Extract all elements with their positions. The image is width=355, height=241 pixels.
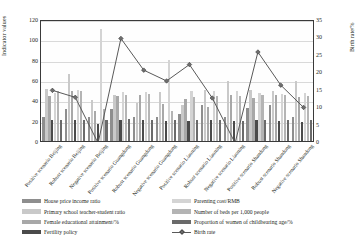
line-path bbox=[52, 38, 303, 142]
y-axis-right-ticks: 05101520253035 bbox=[316, 20, 338, 142]
y-tick-left: 120 bbox=[29, 17, 38, 23]
x-tick-label: Positive scenario Shandong bbox=[226, 143, 269, 193]
x-tick-label: Positive scenario Guangdong bbox=[86, 143, 131, 195]
legend-swatch-icon bbox=[172, 220, 191, 224]
y-tick-right: 20 bbox=[316, 69, 322, 75]
x-tick-label: Negative scenario Liaoning bbox=[203, 143, 246, 192]
y-axis-right-title: Birth rate/% bbox=[349, 23, 355, 53]
y-tick-right: 25 bbox=[316, 52, 322, 58]
legend-label: Female educational attainment/% bbox=[44, 219, 119, 225]
legend-item[interactable]: Female educational attainment/% bbox=[22, 219, 172, 225]
legend-item[interactable]: Birth rate bbox=[172, 229, 338, 235]
y-tick-left: 20 bbox=[32, 119, 38, 125]
y-tick-right: 35 bbox=[316, 17, 322, 23]
x-tick-label: Robust scenario Guangdong bbox=[110, 143, 154, 194]
legend-item[interactable]: Fertility policy bbox=[22, 229, 172, 235]
y-tick-left: 0 bbox=[35, 139, 38, 145]
x-tick-label: Negative scenario Shandong bbox=[270, 143, 314, 194]
y-tick-right: 15 bbox=[316, 87, 322, 93]
legend-label: Fertility policy bbox=[44, 229, 77, 235]
legend-label: Birth rate bbox=[194, 229, 215, 235]
y-tick-right: 5 bbox=[316, 122, 319, 128]
x-axis-labels: Positive scenario BeijingRobust scenario… bbox=[40, 143, 314, 198]
y-tick-left: 60 bbox=[32, 78, 38, 84]
y-tick-right: 10 bbox=[316, 104, 322, 110]
y-tick-left: 100 bbox=[29, 37, 38, 43]
y-axis-left-ticks: 020406080100120 bbox=[16, 20, 38, 142]
line-marker bbox=[50, 88, 55, 93]
y-tick-right: 30 bbox=[316, 34, 322, 40]
legend-label: Primary school teacher-student ratio bbox=[44, 209, 125, 215]
legend-swatch-icon bbox=[22, 209, 41, 213]
chart-legend: House price income ratioParenting cost/R… bbox=[22, 196, 338, 238]
legend-label: Parenting cost/RMB bbox=[194, 198, 240, 204]
x-tick-label: Robust scenario Shandong bbox=[250, 143, 292, 191]
line-marker bbox=[73, 95, 78, 100]
birth-rate-line bbox=[41, 21, 314, 142]
legend-label: Number of beds per 1,000 people bbox=[194, 209, 269, 215]
legend-item[interactable]: Primary school teacher-student ratio bbox=[22, 209, 172, 215]
legend-label: Proportion of women of childbearing age/… bbox=[194, 219, 293, 225]
legend-swatch-icon bbox=[172, 199, 191, 203]
legend-item[interactable]: Proportion of women of childbearing age/… bbox=[172, 219, 338, 225]
legend-item[interactable]: Parenting cost/RMB bbox=[172, 198, 338, 204]
legend-item[interactable]: House price income ratio bbox=[22, 198, 172, 204]
x-tick-label: Positive scenario Beijing bbox=[24, 143, 63, 188]
x-tick-label: Negative scenario Guangdong bbox=[131, 143, 178, 197]
y-axis-left-title: Indicator values bbox=[1, 16, 7, 56]
plot-area-wrapper: Indicator values Birth rate/% 0204060801… bbox=[0, 0, 354, 160]
y-tick-left: 80 bbox=[32, 58, 38, 64]
plot-area bbox=[40, 20, 314, 142]
legend-swatch-icon bbox=[22, 230, 41, 234]
legend-line-marker-icon bbox=[172, 230, 191, 234]
legend-swatch-icon bbox=[172, 209, 191, 213]
legend-swatch-icon bbox=[22, 199, 41, 203]
legend-swatch-icon bbox=[22, 220, 41, 224]
y-tick-left: 40 bbox=[32, 98, 38, 104]
x-tick-label: Positive scenario Liaoning bbox=[158, 143, 200, 191]
y-tick-right: 0 bbox=[316, 139, 319, 145]
legend-label: House price income ratio bbox=[44, 198, 100, 204]
legend-item[interactable]: Number of beds per 1,000 people bbox=[172, 209, 338, 215]
